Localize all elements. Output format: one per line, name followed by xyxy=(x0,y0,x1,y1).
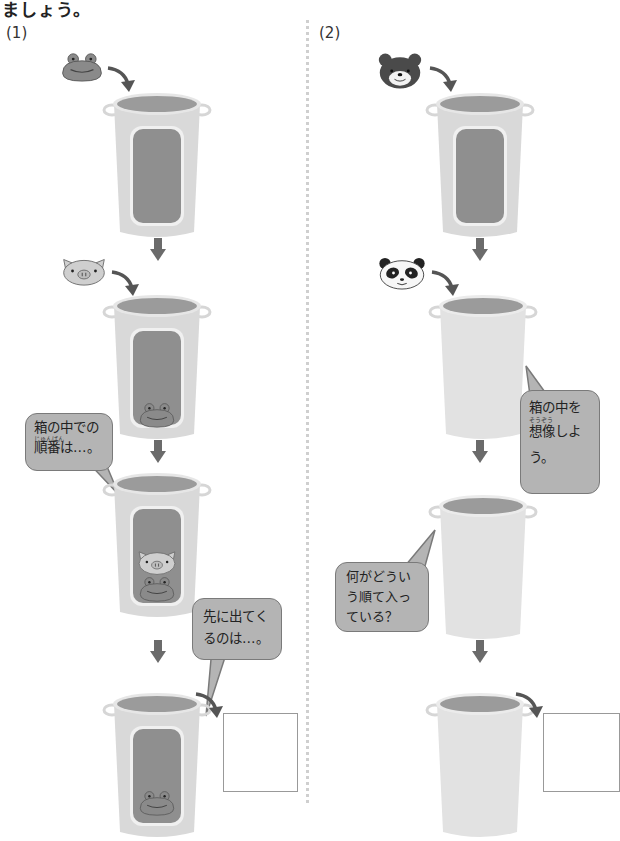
bubble-body: 箱の中での じゅんばん 順番は…。 xyxy=(25,413,113,471)
bin-with-frog xyxy=(102,292,212,442)
down-arrow-icon xyxy=(150,440,166,464)
bin-with-window xyxy=(425,90,535,240)
answer-box-1[interactable] xyxy=(223,713,298,792)
bin-plain xyxy=(428,492,538,642)
frog-icon xyxy=(138,402,176,428)
bin-with-window xyxy=(102,90,212,240)
question-label-1: (1) xyxy=(6,24,27,42)
bubble-body: 何がどうい う順て入っ ている？ xyxy=(335,562,429,632)
curve-arrow-icon xyxy=(194,690,224,720)
bubble-body: 箱の中を そうぞう 想像しよ う。 xyxy=(520,390,600,494)
bear-icon xyxy=(377,52,423,90)
frog-icon xyxy=(138,576,176,602)
bubble-line: るのは…。 xyxy=(203,627,271,649)
bubble-line: 順番は…。 xyxy=(34,438,104,456)
answer-box-2[interactable] xyxy=(543,713,620,792)
bubble-line: う。 xyxy=(529,447,591,467)
panda-icon xyxy=(377,256,427,290)
frog-icon xyxy=(60,52,104,82)
down-arrow-icon xyxy=(472,238,488,262)
down-arrow-icon xyxy=(472,440,488,464)
bubble-line: 先に出てく xyxy=(203,605,271,627)
column-divider xyxy=(306,20,309,803)
bubble-line: 想像しよ xyxy=(529,421,591,441)
pig-icon xyxy=(60,256,108,286)
down-arrow-icon xyxy=(150,238,166,262)
curve-arrow-icon xyxy=(514,690,544,720)
bubble-line: 箱の中での xyxy=(34,418,104,436)
down-arrow-icon xyxy=(472,640,488,664)
bubble-line: ている？ xyxy=(346,607,418,627)
question-label-2: (2) xyxy=(319,24,340,42)
frog-icon xyxy=(138,790,176,816)
down-arrow-icon xyxy=(150,640,166,664)
bubble-line: 何がどうい xyxy=(346,567,418,587)
bubble-line: う順て入っ xyxy=(346,587,418,607)
bubble-body: 先に出てく るのは…。 xyxy=(192,598,282,660)
pig-icon xyxy=(136,548,178,576)
speech-bubble-imagine: 箱の中を そうぞう 想像しよ う。 xyxy=(520,364,611,496)
instruction-text: ましょう。 xyxy=(2,0,91,21)
speech-bubble-what-order: 何がどうい う順て入っ ている？ xyxy=(335,528,435,633)
bubble-line: 箱の中を xyxy=(529,397,591,417)
